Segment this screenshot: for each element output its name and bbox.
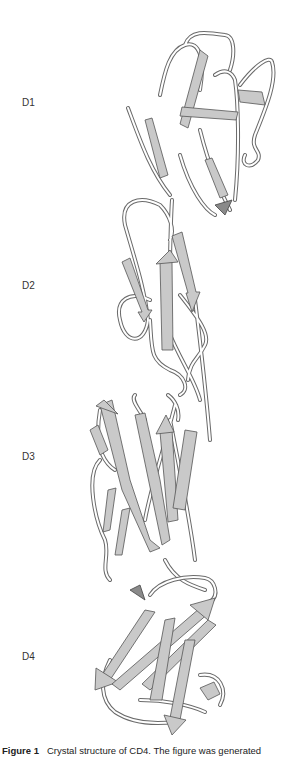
domain-d1 — [128, 33, 274, 215]
d3-strand-6 — [103, 488, 116, 532]
d1-strand-4 — [238, 90, 265, 105]
caption-text: Crystal structure of CD4. The figure was… — [47, 745, 261, 756]
domain-d3 — [90, 395, 205, 590]
d3-strand-5 — [173, 430, 197, 510]
caption-label: Figure 1 — [2, 745, 39, 756]
figure-caption: Figure 1Crystal structure of CD4. The fi… — [2, 745, 294, 756]
domain-label-d2: D2 — [22, 280, 35, 291]
cd4-ribbon-structure — [0, 0, 296, 762]
d4-strand-7 — [130, 585, 145, 600]
domain-d2 — [119, 200, 210, 440]
d1-strand-5 — [205, 158, 228, 198]
d2-strand-2 — [160, 262, 173, 350]
d2-strand-2-head — [156, 250, 178, 264]
domain-label-d3: D3 — [22, 451, 35, 462]
d3-strand-1 — [90, 425, 108, 455]
d4-strand-6 — [200, 682, 220, 700]
domain-d4 — [95, 577, 223, 735]
figure: D1 D2 D3 D4 Figure 1Crystal structure of… — [0, 0, 296, 762]
domain-label-d1: D1 — [22, 97, 35, 108]
d1-strand-3 — [145, 118, 168, 178]
d4-strand-5-head — [164, 715, 186, 735]
domain-label-d4: D4 — [22, 651, 35, 662]
d3-strand-7 — [115, 508, 130, 555]
